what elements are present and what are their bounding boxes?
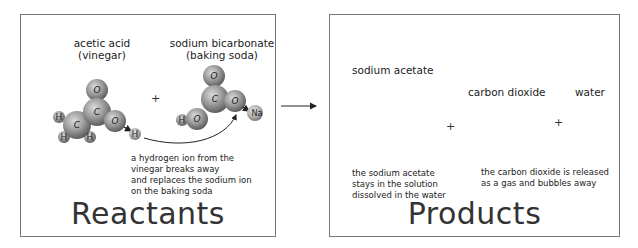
svg-text:O: O bbox=[193, 114, 200, 124]
svg-text:H: H bbox=[179, 115, 186, 125]
svg-text:C: C bbox=[74, 120, 81, 130]
note-line: the sodium acetate bbox=[352, 168, 446, 179]
svg-text:O: O bbox=[231, 96, 238, 106]
note-line: vinegar breaks away bbox=[131, 164, 252, 175]
svg-text:O: O bbox=[210, 71, 217, 81]
note-line: the carbon dioxide is released bbox=[481, 167, 609, 178]
svg-text:O: O bbox=[93, 85, 100, 95]
products-plus-2: + bbox=[554, 116, 563, 129]
svg-text:O: O bbox=[111, 116, 118, 126]
svg-text:H: H bbox=[61, 132, 68, 142]
note-line: a hydrogen ion from the bbox=[131, 153, 252, 164]
carbon-dioxide-note: the carbon dioxide is released as a gas … bbox=[481, 167, 609, 189]
hydrogen-transfer-note: a hydrogen ion from the vinegar breaks a… bbox=[131, 153, 252, 197]
products-plus-1: + bbox=[446, 120, 455, 133]
svg-text:C: C bbox=[212, 94, 219, 104]
water-label: water bbox=[575, 86, 605, 98]
carbon-dioxide-label: carbon dioxide bbox=[468, 86, 546, 98]
reactants-title: Reactants bbox=[20, 196, 276, 231]
svg-text:H: H bbox=[87, 132, 94, 142]
note-line: and replaces the sodium ion bbox=[131, 175, 252, 186]
sodium-bicarbonate-atoms: H O O C O Na bbox=[176, 65, 263, 130]
svg-text:C: C bbox=[94, 107, 101, 117]
svg-text:H: H bbox=[56, 112, 63, 122]
sodium-acetate-label: sodium acetate bbox=[352, 64, 434, 76]
products-title: Products bbox=[329, 196, 620, 231]
svg-text:H: H bbox=[132, 129, 139, 139]
note-line: as a gas and bubbles away bbox=[481, 178, 609, 189]
acetic-acid-atoms: H H H C O C O H bbox=[53, 79, 141, 143]
svg-text:Na: Na bbox=[252, 109, 263, 118]
note-line: stays in the solution bbox=[352, 179, 446, 190]
